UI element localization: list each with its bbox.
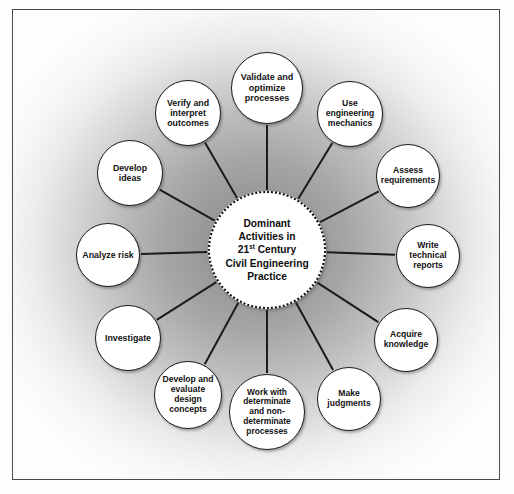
node-work-with-determinate-processes[interactable]: Work with determinate and non- determina…: [229, 374, 305, 450]
node-label-validate-optimize-processes: Validate and optimize processes: [236, 72, 299, 103]
connector-line-develop-evaluate-design-concepts: [205, 303, 239, 365]
node-use-engineering-mechanics[interactable]: Use engineering mechanics: [317, 81, 383, 147]
connector-line-acquire-knowledge: [317, 283, 378, 322]
node-label-make-judgments: Make judgments: [322, 389, 375, 409]
node-assess-requirements[interactable]: Assess requirements: [376, 144, 440, 208]
node-validate-optimize-processes[interactable]: Validate and optimize processes: [231, 52, 303, 124]
node-develop-evaluate-design-concepts[interactable]: Develop and evaluate design concepts: [154, 361, 222, 429]
connector-line-develop-ideas: [160, 190, 215, 221]
node-label-acquire-knowledge: Acquire knowledge: [379, 330, 433, 350]
node-label-write-technical-reports: Write technical reports: [404, 241, 451, 271]
node-analyze-risk[interactable]: Analyze risk: [76, 223, 140, 287]
node-label-assess-requirements: Assess requirements: [376, 166, 440, 186]
node-label-develop-evaluate-design-concepts: Develop and evaluate design concepts: [157, 375, 218, 415]
connector-line-use-engineering-mechanics: [298, 143, 332, 199]
connector-line-analyze-risk: [141, 252, 207, 254]
node-investigate[interactable]: Investigate: [95, 305, 161, 371]
node-label-develop-ideas: Develop ideas: [108, 163, 152, 183]
node-write-technical-reports[interactable]: Write technical reports: [396, 224, 460, 288]
node-make-judgments[interactable]: Make judgments: [317, 367, 381, 431]
diagram-canvas: Validate and optimize processesUse engin…: [0, 0, 514, 494]
node-acquire-knowledge[interactable]: Acquire knowledge: [374, 308, 438, 372]
node-develop-ideas[interactable]: Develop ideas: [97, 140, 163, 206]
node-label-analyze-risk: Analyze risk: [77, 250, 138, 260]
connector-line-investigate: [157, 282, 217, 320]
connector-line-write-technical-reports: [327, 252, 395, 255]
node-label-investigate: Investigate: [100, 333, 156, 343]
node-label-use-engineering-mechanics: Use engineering mechanics: [321, 99, 380, 129]
center-hub-label: DominantActivities in21st CenturyCivil E…: [225, 217, 308, 283]
connector-line-make-judgments: [296, 303, 333, 371]
connector-line-verify-interpret-outcomes: [205, 142, 237, 198]
node-label-work-with-determinate-processes: Work with determinate and non- determina…: [238, 388, 295, 437]
diagram-frame: Validate and optimize processesUse engin…: [12, 9, 500, 480]
node-label-verify-interpret-outcomes: Verify and interpret outcomes: [162, 98, 214, 129]
connector-line-assess-requirements: [320, 191, 379, 222]
node-verify-interpret-outcomes[interactable]: Verify and interpret outcomes: [155, 80, 221, 146]
center-hub[interactable]: DominantActivities in21st CenturyCivil E…: [208, 191, 326, 309]
ordinal-suffix: st: [249, 243, 255, 250]
